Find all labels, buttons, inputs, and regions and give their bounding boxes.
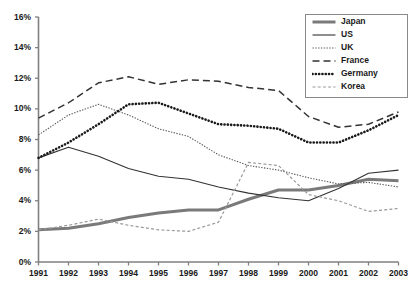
legend-line-swatch-icon	[312, 43, 336, 53]
x-tick-label: 1995	[143, 269, 175, 278]
legend-item-us[interactable]: US	[306, 28, 407, 41]
chart-legend: JapanUSUKFranceGermanyKorea	[305, 14, 408, 98]
x-tick-label: 2001	[323, 269, 355, 278]
legend-item-label: Japan	[341, 17, 366, 26]
y-tick-label: 10%	[0, 104, 31, 113]
legend-item-japan[interactable]: Japan	[306, 15, 407, 28]
series-line-uk	[39, 104, 399, 187]
x-tick-label: 2002	[353, 269, 385, 278]
legend-line-swatch-icon	[312, 17, 336, 27]
x-tick-label: 2000	[293, 269, 325, 278]
y-tick-label: 2%	[0, 227, 31, 236]
x-tick-label: 1996	[173, 269, 205, 278]
legend-item-france[interactable]: France	[306, 54, 407, 67]
legend-item-label: Germany	[341, 69, 378, 78]
series-line-germany	[39, 103, 399, 158]
series-lines	[39, 77, 399, 232]
legend-item-label: Korea	[341, 82, 365, 91]
legend-item-label: France	[341, 56, 369, 65]
legend-item-label: UK	[341, 43, 353, 52]
y-tick-label: 4%	[0, 196, 31, 205]
x-tick-label: 1992	[53, 269, 85, 278]
x-tick-label: 1994	[113, 269, 145, 278]
y-tick-label: 6%	[0, 166, 31, 175]
legend-item-korea[interactable]: Korea	[306, 80, 407, 93]
legend-line-swatch-icon	[312, 30, 336, 40]
legend-line-swatch-icon	[312, 56, 336, 66]
unemployment-line-chart: 0%2%4%6%8%10%12%14%16% 19911992199319941…	[0, 0, 417, 291]
legend-line-swatch-icon	[312, 69, 336, 79]
y-tick-label: 0%	[0, 258, 31, 267]
x-tick-label: 1997	[203, 269, 235, 278]
y-tick-label: 14%	[0, 43, 31, 52]
legend-item-uk[interactable]: UK	[306, 41, 407, 54]
legend-line-swatch-icon	[312, 82, 336, 92]
legend-item-label: US	[341, 30, 353, 39]
x-tick-label: 1998	[233, 269, 265, 278]
x-tick-label: 1991	[23, 269, 55, 278]
y-tick-label: 8%	[0, 135, 31, 144]
x-tick-label: 2003	[383, 269, 415, 278]
y-tick-label: 16%	[0, 13, 31, 22]
x-tick-label: 1993	[83, 269, 115, 278]
series-line-korea	[39, 162, 399, 231]
x-tick-label: 1999	[263, 269, 295, 278]
y-tick-label: 12%	[0, 74, 31, 83]
legend-item-germany[interactable]: Germany	[306, 67, 407, 80]
